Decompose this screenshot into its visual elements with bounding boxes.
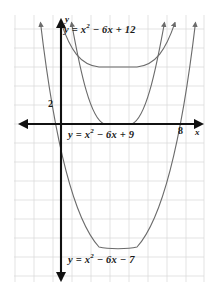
equation-label-middle: y = x2 − 6x + 9 [68, 127, 134, 140]
equation-mid-lhs: y = x [68, 129, 90, 140]
equation-label-top: y = x2 − 6x + 12 [64, 22, 136, 35]
equation-top-lhs: y = x [64, 24, 86, 35]
equation-mid-rhs: − 6x + 9 [94, 129, 134, 140]
equation-label-bottom: y = x2 − 6x − 7 [68, 252, 135, 265]
x-axis-name: x [195, 127, 200, 137]
y-axis-name: y [65, 14, 69, 24]
equation-bot-lhs: y = x [68, 254, 90, 265]
y-axis-tick-label-2: 2 [48, 98, 53, 109]
equation-top-rhs: − 6x + 12 [90, 24, 136, 35]
equation-bot-rhs: − 6x − 7 [94, 254, 135, 265]
x-axis-tick-label-8: 8 [178, 125, 183, 136]
